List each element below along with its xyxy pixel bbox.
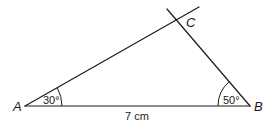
- triangle-diagram: A B C 30° 50° 7 cm: [0, 0, 274, 129]
- vertex-label-c: C: [186, 15, 196, 30]
- vertex-label-b: B: [254, 99, 263, 114]
- construction-line-b: [167, 9, 250, 106]
- angle-label-b: 50°: [223, 94, 240, 106]
- angle-label-a: 30°: [43, 94, 60, 106]
- side-length-label-ab: 7 cm: [125, 110, 149, 122]
- vertex-label-a: A: [12, 99, 22, 114]
- construction-line-a: [25, 7, 199, 106]
